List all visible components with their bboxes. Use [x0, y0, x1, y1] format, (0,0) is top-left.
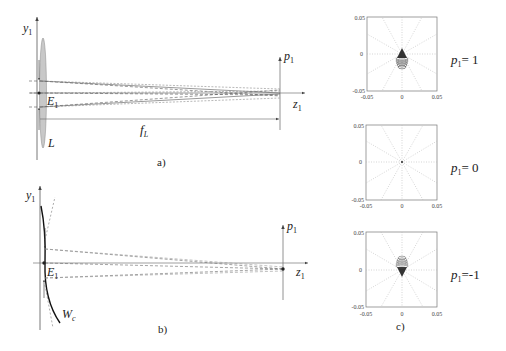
focus-point [281, 267, 284, 270]
svg-text:-0.05: -0.05 [361, 94, 374, 100]
svg-text:0: 0 [401, 94, 404, 100]
z1-label-b: z1 [295, 265, 305, 281]
lens-label: L [47, 136, 55, 150]
svg-text:0: 0 [359, 159, 362, 165]
label-p1-eq-minus-1: p1=-1 [450, 267, 480, 284]
E1-label-b: E1 [46, 265, 58, 281]
svg-text:-0.05: -0.05 [360, 203, 373, 209]
panel-c: 0.05 0 -0.05 -0.05 0 0.05 p1= 1 0.05 0 -… [352, 15, 480, 333]
svg-text:0.05: 0.05 [355, 15, 366, 21]
label-p1-eq-0: p1= 0 [450, 160, 479, 177]
svg-text:0.05: 0.05 [432, 203, 443, 209]
svg-text:0.05: 0.05 [354, 123, 365, 129]
point-E1 [37, 91, 40, 94]
svg-text:0: 0 [401, 203, 404, 209]
E1-label: E1 [46, 94, 58, 110]
svg-text:0: 0 [401, 311, 404, 317]
svg-text:0.05: 0.05 [354, 230, 365, 236]
y1-label: y1 [22, 21, 32, 37]
svg-text:-0.05: -0.05 [360, 311, 373, 317]
caption-b: b) [158, 323, 168, 336]
spot-plot-p1-zero: 0.05 0 -0.05 -0.05 0 0.05 [352, 123, 443, 209]
svg-text:0: 0 [359, 267, 362, 273]
caption-c: c) [396, 320, 405, 333]
svg-text:0.05: 0.05 [432, 94, 443, 100]
point-E1-b [42, 261, 45, 264]
svg-text:0: 0 [360, 51, 363, 57]
caption-a: a) [157, 156, 166, 169]
p1-label: p1 [283, 49, 294, 65]
y1-label-b: y1 [25, 188, 35, 204]
svg-text:-0.05: -0.05 [352, 304, 365, 310]
rays-b [45, 249, 283, 278]
z1-label: z1 [292, 97, 302, 113]
focal-label: fL [140, 122, 149, 139]
panel-a: y1 p1 z1 E1 L fL a) [22, 17, 305, 169]
p1-label-b: p1 [286, 219, 297, 235]
spot-plot-p1-plus: 0.05 0 -0.05 -0.05 0 0.05 [353, 15, 443, 100]
spot-plot-p1-minus: 0.05 0 -0.05 -0.05 0 0.05 [352, 230, 443, 317]
rays-a [29, 81, 280, 107]
optics-figure: y1 p1 z1 E1 L fL a) y1 p1 z1 E1 [0, 0, 506, 351]
label-p1-eq-1: p1= 1 [450, 52, 479, 69]
Wc-label: Wc [62, 307, 76, 323]
svg-text:0.05: 0.05 [432, 311, 443, 317]
panel-b: y1 p1 z1 E1 Wc b) [25, 186, 308, 336]
